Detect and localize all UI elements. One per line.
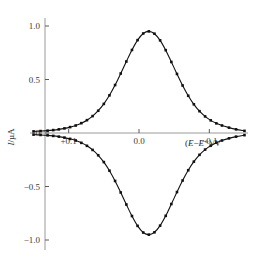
- data-point-marker: [176, 191, 179, 194]
- data-point-marker: [69, 138, 72, 141]
- data-point-marker: [181, 84, 184, 87]
- x-axis-title: (E−E⦵)/V: [185, 137, 222, 148]
- data-point-marker: [181, 179, 184, 182]
- data-point-marker: [52, 135, 55, 138]
- data-point-marker: [136, 39, 139, 42]
- y-tick-label: 0: [36, 128, 41, 138]
- data-point-marker: [153, 231, 156, 234]
- data-point-marker: [46, 129, 49, 132]
- data-point-marker: [108, 94, 111, 97]
- data-point-marker: [142, 231, 145, 234]
- data-point-marker: [86, 119, 89, 122]
- data-point-marker: [235, 135, 238, 138]
- y-axis-title: I/µA: [6, 128, 16, 147]
- data-point-marker: [46, 134, 49, 137]
- data-point-marker: [187, 169, 190, 172]
- data-point-marker: [52, 129, 55, 132]
- y-tick-label: −1.0: [24, 235, 41, 245]
- data-point-marker: [215, 122, 218, 125]
- x-tick-label: 0.0: [133, 136, 145, 146]
- data-point-marker: [69, 126, 72, 129]
- data-point-marker: [204, 115, 207, 118]
- data-point-marker: [74, 139, 77, 142]
- data-point-marker: [58, 128, 61, 131]
- data-point-marker: [103, 103, 106, 106]
- data-point-marker: [114, 180, 117, 183]
- data-point-marker: [97, 154, 100, 157]
- chart-canvas: 1.00.50−0.5−1.0 +0.10.0−0.1 I/µA (E−E⦵)/…: [0, 0, 254, 266]
- data-point-marker: [209, 119, 212, 122]
- y-tick-label: 0.5: [29, 75, 41, 85]
- data-point-marker: [228, 137, 231, 140]
- data-point-marker: [74, 124, 77, 127]
- data-point-marker: [176, 73, 179, 76]
- data-point-marker: [114, 84, 117, 87]
- data-point-marker: [198, 110, 201, 113]
- data-point-marker: [204, 148, 207, 151]
- data-point-marker: [159, 224, 162, 227]
- data-point-marker: [91, 115, 94, 118]
- data-point-marker: [125, 60, 128, 63]
- data-point-marker: [63, 127, 66, 130]
- data-point-marker: [198, 154, 201, 157]
- data-point-marker: [58, 135, 61, 138]
- data-point-marker: [131, 49, 134, 52]
- data-point-marker: [63, 136, 66, 139]
- y-tick-label: 1.0: [29, 21, 41, 31]
- data-point-marker: [108, 169, 111, 172]
- data-point-marker: [91, 149, 94, 152]
- data-point-marker: [164, 215, 167, 218]
- data-point-marker: [193, 103, 196, 106]
- data-point-marker: [221, 139, 224, 142]
- data-point-marker: [193, 160, 196, 163]
- data-point-marker: [80, 142, 83, 145]
- data-point-marker: [142, 32, 145, 35]
- data-point-marker: [164, 49, 167, 52]
- data-point-marker: [235, 128, 238, 131]
- data-point-marker: [119, 72, 122, 75]
- data-point-marker: [125, 203, 128, 206]
- data-point-marker: [103, 161, 106, 164]
- y-axis-title-text: I/µA: [6, 128, 16, 147]
- data-point-marker: [148, 233, 151, 236]
- data-point-marker: [80, 122, 83, 125]
- data-point-marker: [170, 61, 173, 64]
- data-point-marker: [148, 30, 151, 33]
- data-point-marker: [243, 130, 246, 133]
- data-point-marker: [39, 130, 42, 133]
- data-point-marker: [32, 133, 35, 136]
- y-tick-label: −0.5: [24, 182, 41, 192]
- data-point-marker: [170, 203, 173, 206]
- voltammogram-figure: 1.00.50−0.5−1.0 +0.10.0−0.1 I/µA (E−E⦵)/…: [0, 0, 254, 266]
- data-point-marker: [159, 39, 162, 42]
- data-point-marker: [32, 130, 35, 133]
- x-axis-title-text: (E−E⦵)/V: [185, 137, 222, 148]
- data-point-marker: [136, 225, 139, 228]
- data-point-marker: [97, 109, 100, 112]
- data-point-marker: [119, 191, 122, 194]
- data-point-marker: [153, 32, 156, 35]
- data-point-marker: [39, 134, 42, 137]
- data-point-marker: [228, 126, 231, 129]
- data-point-marker: [86, 145, 89, 148]
- data-point-marker: [221, 124, 224, 127]
- data-point-marker: [131, 215, 134, 218]
- data-point-marker: [187, 94, 190, 97]
- data-point-marker: [243, 134, 246, 137]
